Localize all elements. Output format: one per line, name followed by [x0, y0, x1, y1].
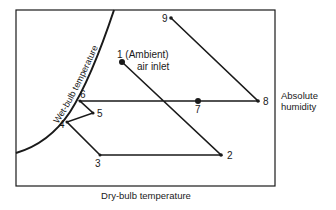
point-2-marker [219, 153, 223, 157]
y-axis-label-line1: Absolute [281, 90, 318, 101]
point-8-marker [256, 99, 260, 103]
point-7-label: 7 [195, 104, 201, 115]
point-4-label: 4 [59, 119, 65, 130]
point-1-sublabel: air inlet [137, 61, 169, 72]
point-4-marker [66, 121, 69, 124]
point-3-label: 3 [95, 158, 101, 169]
point-8-label: 8 [263, 96, 269, 107]
psychrometric-diagram: Wet-bulb temperature 1 (Ambient) air inl… [0, 0, 336, 210]
point-2-label: 2 [227, 150, 233, 161]
wet-bulb-curve [16, 10, 114, 153]
plot-frame [16, 10, 275, 186]
point-9-label: 9 [162, 13, 168, 24]
process-path [67, 18, 258, 155]
point-5-label: 5 [97, 108, 103, 119]
point-6-label: 6 [80, 89, 86, 100]
y-axis-label-line2: humidity [281, 101, 317, 112]
point-5-marker [92, 112, 95, 115]
point-1-label: 1 (Ambient) [117, 49, 169, 60]
x-axis-label: Dry-bulb temperature [101, 190, 191, 201]
point-markers [66, 16, 260, 157]
point-3-marker [99, 154, 102, 157]
point-9-marker [169, 16, 173, 20]
